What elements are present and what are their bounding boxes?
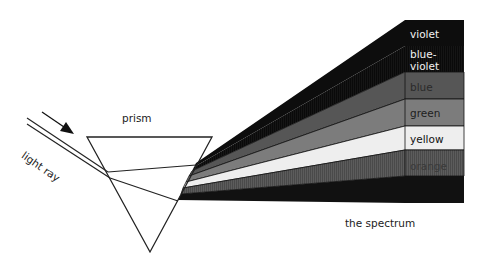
band-label-blue-violet-line2: violet [410, 60, 439, 72]
refracted-ray-top [108, 165, 196, 172]
band-label-green: green [410, 107, 440, 119]
band-label-blue-violet-line1: blue- [410, 48, 439, 60]
band-label-orange: orange [410, 160, 447, 172]
band-label-blue-violet: blue- violet [410, 48, 439, 72]
band-label-blue: blue [410, 81, 433, 93]
band-label-yellow: yellow [410, 133, 444, 145]
spectrum-label: the spectrum [345, 218, 415, 229]
prism-label: prism [122, 113, 152, 124]
band-label-violet: violet [410, 28, 439, 40]
